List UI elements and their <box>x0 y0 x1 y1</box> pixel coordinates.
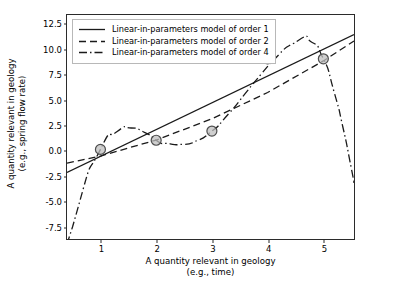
chart-figure: -7.5-5.0-2.50.02.55.07.510.012.5 12345 A… <box>0 0 394 294</box>
legend-line-sample <box>78 47 106 58</box>
legend-label: Linear-in-parameters model of order 2 <box>112 36 269 47</box>
y-axis-label-line2: (e.g., spring flow rate) <box>16 24 27 224</box>
y-axis-label-line1: A quantity relevant in geology <box>6 24 17 224</box>
data-point-marker <box>207 126 217 136</box>
chart-legend: Linear-in-parameters model of order 1Lin… <box>72 19 276 64</box>
legend-item: Linear-in-parameters model of order 2 <box>78 36 269 48</box>
legend-item: Linear-in-parameters model of order 1 <box>78 24 269 36</box>
x-axis-label: A quantity relevant in geology (e.g., ti… <box>66 256 355 277</box>
x-tick-label: 4 <box>266 239 271 254</box>
legend-label: Linear-in-parameters model of order 1 <box>112 24 269 35</box>
legend-line-sample <box>78 36 106 47</box>
x-tick-label: 1 <box>99 239 104 254</box>
y-tick-label: 0.0 <box>48 146 67 156</box>
legend-item: Linear-in-parameters model of order 4 <box>78 47 269 59</box>
data-point-marker <box>95 144 105 154</box>
y-tick-label: -5.0 <box>45 197 67 207</box>
x-axis-label-line2: (e.g., time) <box>66 267 355 278</box>
y-tick-label: 2.5 <box>48 121 67 131</box>
data-point-marker <box>151 135 161 145</box>
y-tick-label: -2.5 <box>45 172 67 182</box>
y-tick-label: 12.5 <box>43 19 67 29</box>
x-axis-label-line1: A quantity relevant in geology <box>66 256 355 267</box>
x-tick-label: 5 <box>322 239 327 254</box>
legend-label: Linear-in-parameters model of order 4 <box>112 47 269 58</box>
y-axis-label: A quantity relevant in geology (e.g., sp… <box>6 24 27 224</box>
x-tick-label: 3 <box>210 239 215 254</box>
x-tick-label: 2 <box>154 239 159 254</box>
series-line <box>67 36 354 239</box>
y-tick-label: 5.0 <box>48 96 67 106</box>
legend-line-sample <box>78 24 106 35</box>
data-point-marker <box>318 54 328 64</box>
y-tick-label: -7.5 <box>45 223 67 233</box>
y-tick-label: 10.0 <box>43 45 67 55</box>
y-tick-label: 7.5 <box>48 70 67 80</box>
